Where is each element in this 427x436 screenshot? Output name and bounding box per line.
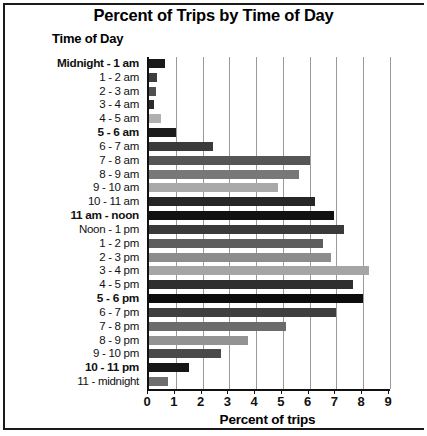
bar xyxy=(149,87,156,96)
x-tick-label: 3 xyxy=(215,394,239,409)
x-tick-label: 4 xyxy=(242,394,266,409)
x-tick-label: 8 xyxy=(349,394,373,409)
bar-row xyxy=(149,278,390,292)
bar xyxy=(149,239,323,248)
x-axis-title: Percent of trips xyxy=(147,412,388,427)
chart-title: Percent of Trips by Time of Day xyxy=(0,6,427,25)
x-tick-label: 2 xyxy=(189,394,213,409)
bar-row xyxy=(149,306,390,320)
bar-row xyxy=(149,223,390,237)
bar xyxy=(149,100,154,109)
bar xyxy=(149,114,161,123)
y-axis-title: Time of Day xyxy=(52,31,123,46)
bar xyxy=(149,128,176,137)
category-label: 8 - 9 pm xyxy=(0,334,143,348)
category-label: 6 - 7 am xyxy=(0,140,143,154)
category-label: Midnight - 1 am xyxy=(0,57,143,71)
bar xyxy=(149,183,278,192)
category-label: 8 - 9 am xyxy=(0,168,143,182)
bar xyxy=(149,170,299,179)
bar-row xyxy=(149,154,390,168)
category-label: 11 - midnight xyxy=(0,375,143,389)
bar xyxy=(149,363,189,372)
bar-row xyxy=(149,112,390,126)
bar xyxy=(149,59,165,68)
bar xyxy=(149,349,221,358)
bar xyxy=(149,322,286,331)
bar xyxy=(149,253,331,262)
category-label: 2 - 3 pm xyxy=(0,251,143,265)
bar xyxy=(149,197,315,206)
bar xyxy=(149,377,168,386)
category-label: 6 - 7 pm xyxy=(0,306,143,320)
x-tick-label: 6 xyxy=(296,394,320,409)
bar-row xyxy=(149,251,390,265)
category-label: 10 - 11 pm xyxy=(0,361,143,375)
bar xyxy=(149,336,248,345)
category-label: 1 - 2 am xyxy=(0,71,143,85)
bar-row xyxy=(149,140,390,154)
category-label: 4 - 5 pm xyxy=(0,278,143,292)
category-label: 5 - 6 pm xyxy=(0,292,143,306)
bar-row xyxy=(149,334,390,348)
category-label: 10 - 11 am xyxy=(0,195,143,209)
bar-row xyxy=(149,320,390,334)
category-label: 9 - 10 am xyxy=(0,181,143,195)
x-tick-label: 5 xyxy=(269,394,293,409)
bar xyxy=(149,225,344,234)
bar xyxy=(149,308,336,317)
category-label: 11 am - noon xyxy=(0,209,143,223)
category-label: 9 - 10 pm xyxy=(0,347,143,361)
bar-row xyxy=(149,237,390,251)
x-axis-tick-labels: 0123456789 xyxy=(147,394,388,410)
gridline-9 xyxy=(390,57,391,389)
category-label: 5 - 6 am xyxy=(0,126,143,140)
category-label: 4 - 5 am xyxy=(0,112,143,126)
category-label: Noon - 1 pm xyxy=(0,223,143,237)
bar xyxy=(149,211,334,220)
bar-row xyxy=(149,126,390,140)
bar xyxy=(149,73,157,82)
bar-row xyxy=(149,375,390,389)
category-axis-labels: Midnight - 1 am1 - 2 am2 - 3 am3 - 4 am4… xyxy=(0,57,143,389)
bar-row xyxy=(149,347,390,361)
category-label: 1 - 2 pm xyxy=(0,237,143,251)
bar-row xyxy=(149,57,390,71)
category-label: 3 - 4 am xyxy=(0,98,143,112)
bar-row xyxy=(149,71,390,85)
bar-row xyxy=(149,361,390,375)
x-tick-label: 9 xyxy=(376,394,400,409)
x-tick-label: 1 xyxy=(162,394,186,409)
bar-row xyxy=(149,209,390,223)
bar-row xyxy=(149,181,390,195)
x-tick-label: 0 xyxy=(135,394,159,409)
bar xyxy=(149,280,353,289)
bar-row xyxy=(149,264,390,278)
x-tick-label: 7 xyxy=(322,394,346,409)
category-label: 7 - 8 pm xyxy=(0,320,143,334)
bar-chart-figure: Percent of Trips by Time of Day Time of … xyxy=(0,0,427,436)
plot-area xyxy=(147,57,390,389)
category-label: 7 - 8 am xyxy=(0,154,143,168)
bar xyxy=(149,142,213,151)
figure-bottom-rule xyxy=(3,428,424,430)
bar xyxy=(149,266,369,275)
bar-row xyxy=(149,292,390,306)
category-label: 3 - 4 pm xyxy=(0,264,143,278)
bar-row xyxy=(149,168,390,182)
bar-row xyxy=(149,85,390,99)
bar xyxy=(149,294,363,303)
bar-row xyxy=(149,195,390,209)
bar-series xyxy=(149,57,390,389)
bar-row xyxy=(149,98,390,112)
category-label: 2 - 3 am xyxy=(0,85,143,99)
bar xyxy=(149,156,310,165)
